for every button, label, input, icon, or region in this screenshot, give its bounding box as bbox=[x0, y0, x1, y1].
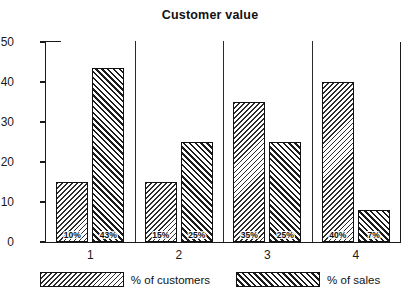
legend-label-sales: % of sales bbox=[327, 274, 380, 286]
bar-2-series1[interactable]: 15% bbox=[145, 182, 177, 242]
legend-item-sales[interactable]: % of sales bbox=[236, 272, 380, 287]
chart-title: Customer value bbox=[0, 8, 420, 22]
legend-swatch-customers-icon bbox=[40, 272, 124, 287]
y-axis-label-50: 50 bbox=[0, 35, 14, 49]
bar-1-series2[interactable]: 43% bbox=[92, 68, 124, 242]
x-axis-label-2: 2 bbox=[149, 248, 209, 262]
bar-3-series1[interactable]: 35% bbox=[233, 102, 265, 242]
y-axis-label-10: 10 bbox=[0, 195, 14, 209]
bar-value-label: 25% bbox=[182, 231, 212, 240]
bar-value-label: 15% bbox=[146, 231, 176, 240]
legend-swatch-sales-icon bbox=[236, 272, 320, 287]
bar-3-series2[interactable]: 25% bbox=[269, 142, 301, 242]
bar-group-4: 40%7% bbox=[312, 42, 401, 242]
chart-container: Customer value 01020304050 10%43%15%25%3… bbox=[0, 0, 420, 308]
bar-group-1: 10%43% bbox=[46, 42, 135, 242]
bar-value-label: 43% bbox=[93, 231, 123, 240]
legend-item-customers[interactable]: % of customers bbox=[40, 272, 210, 287]
chart-legend: % of customers % of sales bbox=[0, 272, 420, 287]
bar-group-2: 15%25% bbox=[135, 42, 224, 242]
x-axis-label-4: 4 bbox=[326, 248, 386, 262]
bar-1-series1[interactable]: 10% bbox=[56, 182, 88, 242]
y-axis-label-30: 30 bbox=[0, 115, 14, 129]
x-axis-label-1: 1 bbox=[60, 248, 120, 262]
bar-value-label: 25% bbox=[270, 231, 300, 240]
bar-value-label: 10% bbox=[57, 231, 87, 240]
y-axis-label-40: 40 bbox=[0, 75, 14, 89]
plot-area: 10%43%15%25%35%25%40%7% bbox=[46, 42, 400, 242]
legend-label-customers: % of customers bbox=[131, 274, 210, 286]
bar-value-label: 7% bbox=[359, 231, 389, 240]
y-axis-label-0: 0 bbox=[0, 235, 14, 249]
bar-2-series2[interactable]: 25% bbox=[181, 142, 213, 242]
bar-value-label: 40% bbox=[323, 231, 353, 240]
x-axis-label-3: 3 bbox=[237, 248, 297, 262]
bar-value-label: 35% bbox=[234, 231, 264, 240]
bar-4-series1[interactable]: 40% bbox=[322, 82, 354, 242]
y-axis-label-20: 20 bbox=[0, 155, 14, 169]
bar-4-series2[interactable]: 7% bbox=[358, 210, 390, 242]
bar-group-3: 35%25% bbox=[223, 42, 312, 242]
